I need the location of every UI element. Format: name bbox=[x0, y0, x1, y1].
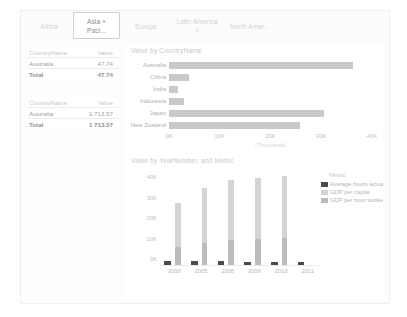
table-row[interactable]: Australia 1 713.57 bbox=[27, 108, 119, 119]
y-axis-tick: 40K bbox=[147, 174, 157, 180]
column-segment-gdp-per-hour-worked bbox=[228, 240, 234, 265]
table-header-row: CountryName Value bbox=[27, 97, 119, 108]
bar-fill bbox=[169, 110, 324, 118]
y-axis-tick: 0K bbox=[150, 256, 157, 262]
column-segment-gdp-per-hour-worked bbox=[202, 243, 208, 265]
tab-label: Europe bbox=[127, 22, 165, 31]
cell-value: 1 713.57 bbox=[79, 108, 119, 119]
column-segment-gdp-per-capita bbox=[175, 203, 181, 247]
column-header-value: Value bbox=[79, 97, 119, 108]
y-axis-tick: 30K bbox=[147, 195, 157, 201]
report-page: Africa Asia + Paci... Europe Latin Ameri… bbox=[0, 0, 407, 317]
chart-title: Value by CountryName bbox=[131, 47, 202, 54]
table-total-row: Total 1 713.57 bbox=[27, 119, 119, 130]
column-segment-gdp-per-capita bbox=[282, 176, 288, 238]
column-chart-value-by-year-metric[interactable]: Value by YearNumber, and Metric 0K10K20K… bbox=[125, 153, 383, 299]
tab-north-america[interactable]: North Amer... bbox=[226, 14, 274, 38]
cell-total-value: 47.74 bbox=[86, 69, 119, 80]
legend-label: GDP per hour worked bbox=[330, 197, 383, 203]
matrix-visual-bottom[interactable]: CountryName Value Australia 1 713.57 Tot… bbox=[27, 97, 119, 130]
column-group[interactable]: 2010 bbox=[268, 175, 295, 265]
x-axis-tick: 10K bbox=[215, 133, 225, 139]
bar-chart-plot-area: AustraliaChinaIndiaIndonesiaJapanNew Zea… bbox=[169, 59, 372, 131]
cell-total-value: 1 713.57 bbox=[79, 119, 119, 130]
bar-fill bbox=[169, 122, 300, 130]
tab-label: Latin America + bbox=[174, 17, 220, 35]
column-segment-gdp-per-hour-worked bbox=[282, 238, 288, 265]
x-axis-title: (Thousands) bbox=[169, 142, 372, 148]
x-axis-tick: 2011 bbox=[301, 268, 313, 274]
tab-label: Asia + Paci... bbox=[77, 17, 116, 35]
column-segment-gdp-per-capita bbox=[228, 180, 234, 240]
bar-chart-row[interactable]: India bbox=[169, 86, 372, 94]
x-axis-tick: 0K bbox=[165, 133, 172, 139]
tab-asia-pacific[interactable]: Asia + Paci... bbox=[73, 12, 120, 39]
cell-total-label: Total bbox=[27, 119, 79, 130]
matrix-visual-top[interactable]: CountryName Value Australia 47.74 Total … bbox=[27, 47, 119, 80]
column-bar-gdp-stack bbox=[175, 203, 181, 265]
column-group[interactable]: 2009 bbox=[241, 175, 268, 265]
bar-chart-row[interactable]: Japan bbox=[169, 110, 372, 118]
bar-fill bbox=[169, 62, 353, 70]
bar-fill bbox=[169, 86, 178, 94]
tab-label: North Amer... bbox=[229, 22, 271, 31]
column-chart-plot-area: 0K10K20K30K40K200020052008200920102011 bbox=[161, 175, 321, 265]
tab-europe[interactable]: Europe bbox=[124, 14, 168, 38]
column-header-country: CountryName bbox=[27, 47, 86, 58]
legend-swatch bbox=[321, 190, 328, 195]
bar-chart-row[interactable]: Indonesia bbox=[169, 98, 372, 106]
column-group[interactable]: 2008 bbox=[214, 175, 241, 265]
cell-country: Australia bbox=[27, 58, 86, 69]
cell-total-label: Total bbox=[27, 69, 86, 80]
matrix-table: CountryName Value Australia 1 713.57 Tot… bbox=[27, 97, 119, 130]
column-bar-gdp-stack bbox=[228, 180, 234, 266]
chart-legend: Metric Average hours actuallyGDP per cap… bbox=[321, 171, 383, 206]
legend-item-list: Average hours actuallyGDP per capitaGDP … bbox=[321, 181, 383, 203]
legend-swatch bbox=[321, 182, 328, 187]
legend-item[interactable]: GDP per hour worked bbox=[321, 197, 383, 203]
column-segment-gdp-per-capita bbox=[202, 188, 208, 242]
bar-category-label: Indonesia bbox=[140, 98, 166, 104]
axis-baseline bbox=[161, 265, 321, 266]
x-axis-tick: 2000 bbox=[168, 268, 181, 274]
tab-label: Africa bbox=[30, 22, 68, 31]
bar-category-label: China bbox=[150, 74, 166, 80]
column-segment-gdp-per-hour-worked bbox=[255, 239, 261, 265]
chart-title: Value by YearNumber, and Metric bbox=[131, 157, 233, 164]
bar-chart-value-by-country[interactable]: Value by CountryName AustraliaChinaIndia… bbox=[125, 43, 383, 153]
table-header-row: CountryName Value bbox=[27, 47, 119, 58]
x-axis-tick: 20K bbox=[265, 133, 275, 139]
cell-country: Australia bbox=[27, 108, 79, 119]
legend-title: Metric bbox=[329, 171, 383, 178]
column-segment-gdp-per-hour-worked bbox=[175, 247, 181, 265]
column-bar-gdp-stack bbox=[255, 178, 261, 265]
column-group[interactable]: 2011 bbox=[294, 175, 321, 265]
legend-item[interactable]: Average hours actually bbox=[321, 181, 383, 187]
table-row[interactable]: Australia 47.74 bbox=[27, 58, 119, 69]
cell-value: 47.74 bbox=[86, 58, 119, 69]
bar-category-label: Australia bbox=[143, 62, 166, 68]
bar-chart-row[interactable]: New Zealand bbox=[169, 122, 372, 130]
legend-label: GDP per capita bbox=[330, 189, 370, 195]
column-bar-gdp-stack bbox=[202, 188, 208, 265]
y-axis-tick: 10K bbox=[147, 236, 157, 242]
column-header-country: CountryName bbox=[27, 97, 79, 108]
y-axis-tick: 20K bbox=[147, 215, 157, 221]
matrix-table: CountryName Value Australia 47.74 Total … bbox=[27, 47, 119, 80]
report-canvas: CountryName Value Australia 47.74 Total … bbox=[21, 41, 389, 302]
bar-chart-row[interactable]: Australia bbox=[169, 62, 372, 70]
x-axis-tick: 2009 bbox=[248, 268, 261, 274]
bar-category-label: India bbox=[153, 86, 166, 92]
legend-label: Average hours actually bbox=[330, 181, 383, 187]
x-axis-tick: 40K bbox=[367, 133, 377, 139]
column-segment-gdp-per-capita bbox=[255, 178, 261, 239]
legend-swatch bbox=[321, 198, 328, 203]
tab-africa[interactable]: Africa bbox=[27, 14, 71, 38]
column-group[interactable]: 2000 bbox=[161, 175, 188, 265]
bar-chart-row[interactable]: China bbox=[169, 74, 372, 82]
tab-strip: Africa Asia + Paci... Europe Latin Ameri… bbox=[21, 11, 389, 42]
column-group[interactable]: 2005 bbox=[188, 175, 215, 265]
legend-item[interactable]: GDP per capita bbox=[321, 189, 383, 195]
report-frame: Africa Asia + Paci... Europe Latin Ameri… bbox=[20, 10, 390, 304]
tab-latin-america[interactable]: Latin America + bbox=[171, 14, 223, 38]
